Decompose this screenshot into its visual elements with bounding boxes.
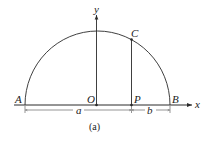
point-o	[95, 104, 98, 107]
figure-caption: (a)	[89, 121, 100, 133]
label-point-o: O	[87, 93, 95, 105]
semicircle-diagram: y x A O P B C a b (a)	[0, 0, 217, 141]
point-p	[130, 104, 133, 107]
label-point-a: A	[14, 93, 22, 105]
label-point-b: B	[172, 93, 179, 105]
label-y-axis: y	[93, 3, 99, 15]
label-dim-b: b	[147, 104, 153, 116]
semicircle-arc	[25, 31, 170, 105]
label-x-axis: x	[194, 98, 200, 110]
label-point-p: P	[133, 93, 141, 105]
label-dim-a: a	[76, 104, 82, 116]
label-point-c: C	[131, 27, 139, 39]
